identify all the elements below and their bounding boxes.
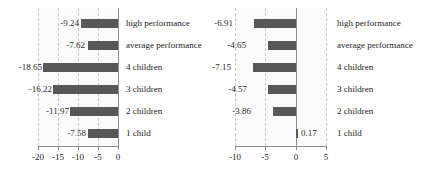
x-ticklabel--5: -5 [261,152,269,162]
bar-high-performance [254,19,296,28]
x-tick-5 [326,146,327,150]
category-label-average-performance: average performance [337,41,413,50]
x-ticklabel-0: 0 [294,152,299,162]
gridline-x--5 [265,8,266,146]
category-label-high-performance: high performance [337,19,401,28]
category-label-average-performance: average performance [126,41,202,50]
value-label-2-children: -3.86 [230,107,251,116]
gridline-x--15 [58,8,59,146]
bar-average-performance [268,41,296,50]
category-label-2-children: 2 children [126,107,162,116]
value-label-high-performance: -6.91 [212,19,233,28]
chart-panel-right: -6.91 -4.65 -7.15 -4.57 -3.86 0.17 high … [216,0,433,178]
bar-3-children [53,85,118,94]
x-tick--20 [38,146,39,150]
bar-1-child [296,129,298,138]
category-label-high-performance: high performance [126,19,190,28]
bar-4-children [253,63,296,72]
category-label-1-child: 1 child [337,129,362,138]
gridline-x-5 [326,8,327,146]
x-ticklabel--10: -10 [229,152,241,162]
category-label-1-child: 1 child [126,129,151,138]
value-label-1-child: 0.17 [301,129,325,138]
bar-2-children [273,107,296,116]
value-label-average-performance: -4.65 [225,41,246,50]
value-label-high-performance: -9.24 [41,19,79,28]
x-ticklabel-0: 0 [116,152,121,162]
gridline-x--10 [235,8,236,146]
x-ticklabel--10: -10 [72,152,84,162]
x-tick--10 [78,146,79,150]
value-label-4-children: -7.15 [210,63,231,72]
chart-panel-left: -9.24 -7.62 -18.65 -16.22 -11.97 -7.58 h… [0,0,217,178]
x-tick--5 [98,146,99,150]
x-tick--15 [58,146,59,150]
x-ticklabel--15: -15 [52,152,64,162]
value-label-3-children: -4.57 [226,85,247,94]
bar-2-children [70,107,118,116]
bar-average-performance [88,41,119,50]
x-tick--5 [265,146,266,150]
gridline-x--20 [38,8,39,146]
zero-axis-line-left [118,8,119,146]
bar-1-child [88,129,118,138]
x-ticklabel-5: 5 [324,152,329,162]
bar-3-children [268,85,296,94]
value-label-average-performance: -7.62 [47,41,85,50]
category-label-4-children: 4 children [126,63,162,72]
zero-axis-line-right [296,8,297,146]
x-ticklabel--20: -20 [32,152,44,162]
x-tick-0 [118,146,119,150]
gridline-x--5 [98,8,99,146]
plot-area-right [235,8,326,146]
x-tick-0 [296,146,297,150]
two-panel-bar-chart-figure: -9.24 -7.62 -18.65 -16.22 -11.97 -7.58 h… [0,0,433,178]
plot-area-left [38,8,118,146]
category-label-3-children: 3 children [337,85,373,94]
bar-4-children [43,63,118,72]
x-ticklabel--5: -5 [94,152,102,162]
category-label-3-children: 3 children [126,85,162,94]
x-axis-right [235,146,326,147]
value-label-1-child: -7.58 [48,129,86,138]
bar-high-performance [81,19,118,28]
value-label-4-children: -18.65 [2,63,42,72]
value-label-2-children: -11.97 [29,107,69,116]
category-label-2-children: 2 children [337,107,373,116]
gridline-x--10 [78,8,79,146]
x-tick--10 [235,146,236,150]
category-label-4-children: 4 children [337,63,373,72]
value-label-3-children: -16.22 [12,85,52,94]
